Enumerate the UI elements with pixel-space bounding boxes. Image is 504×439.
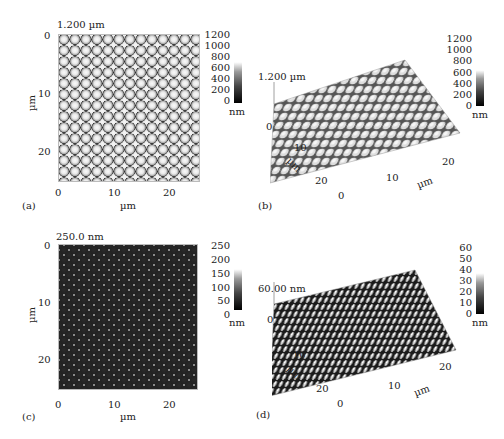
height-label: 1.200 µm [57,20,105,30]
colorbar-tick: 250 [204,241,230,251]
colorbar-tick: 800 [446,56,472,66]
colorbar-tick: 20 [446,287,472,297]
colorbar-tick: 0 [446,309,472,319]
y-tick: 20 [316,384,329,394]
colorbar-tick: 1000 [204,41,230,51]
colorbar-tick: 600 [446,68,472,78]
colorbar-tick: 400 [446,79,472,89]
colorbar-tick: 800 [204,52,230,62]
colorbar-tick: 0 [204,96,230,106]
panel-label: (d) [256,410,270,420]
x-tick: 10 [386,173,399,183]
y-tick: 10 [38,89,51,99]
colorbar-tick: 50 [204,296,230,306]
y-tick: 0 [44,31,50,41]
colorbar-tick: 150 [204,269,230,279]
x-tick: 20 [442,157,455,167]
y-axis-label: µm [27,307,37,323]
x-axis-label: µm [416,176,434,191]
colorbar-unit: nm [229,107,245,117]
colorbar-tick: 0 [446,101,472,111]
x-tick: 10 [108,188,121,198]
y-tick: 10 [38,298,51,308]
y-axis-label: µm [27,95,37,111]
x-tick: 20 [439,362,452,372]
colorbar-tick: 1200 [204,30,230,40]
x-tick: 10 [388,381,401,391]
colorbar-tick: 200 [204,85,230,95]
colorbar-tick: 1200 [446,34,472,44]
colorbar [476,266,484,314]
height-label: 250.0 nm [56,232,104,242]
x-axis-label: µm [120,412,136,422]
colorbar-tick: 30 [446,276,472,286]
colorbar-tick: 50 [446,254,472,264]
y-tick: 20 [38,147,51,157]
afm-3d-surface-d [272,268,464,398]
x-tick: 0 [55,188,61,198]
x-axis-label: µm [120,201,136,211]
colorbar [234,55,242,103]
colorbar-tick: 600 [204,63,230,73]
colorbar [476,64,484,106]
colorbar-tick: 200 [204,255,230,265]
colorbar-tick: 400 [204,74,230,84]
colorbar-tick: 60 [446,243,472,253]
colorbar [234,262,242,310]
panel-label: (c) [22,412,35,422]
z-tick: 0 [267,315,273,325]
colorbar-tick: 10 [446,298,472,308]
y-tick: 10 [293,350,306,360]
y-tick: 0 [44,241,50,251]
y-tick: 20 [38,355,51,365]
afm-image-c [58,244,198,390]
y-tick: 10 [294,143,307,153]
colorbar-tick: 1000 [446,45,472,55]
colorbar-tick: 0 [204,310,230,320]
x-tick: 0 [338,191,344,201]
colorbar-tick: 200 [446,90,472,100]
z-tick: 0 [266,122,272,132]
colorbar-tick: 100 [204,283,230,293]
x-tick: 20 [163,188,176,198]
x-tick: 20 [163,400,176,410]
x-tick: 0 [337,399,343,409]
y-tick: 20 [315,176,328,186]
panel-label: (b) [258,201,272,211]
x-tick: 10 [108,400,121,410]
colorbar-unit: nm [229,318,245,328]
x-tick: 0 [55,400,61,410]
colorbar-unit: nm [472,318,488,328]
panel-label: (a) [22,201,36,211]
colorbar-unit: nm [472,110,488,120]
colorbar-tick: 40 [446,265,472,275]
afm-image-a [58,34,200,182]
